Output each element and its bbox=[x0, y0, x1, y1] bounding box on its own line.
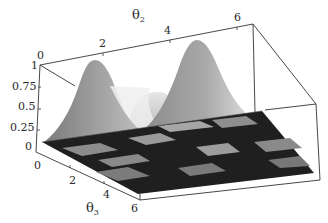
x-tick-label: 6 bbox=[234, 12, 241, 23]
z-tick-label: 0.75 bbox=[12, 81, 37, 92]
z-tick-label: 0.5 bbox=[18, 101, 36, 112]
y-axis-label: θ3 bbox=[86, 201, 99, 217]
y-tick-label: 4 bbox=[103, 189, 110, 200]
z-tick-label: 0.25 bbox=[10, 122, 35, 133]
x-axis-label: θ2 bbox=[132, 8, 145, 24]
x-tick-label: 2 bbox=[99, 38, 106, 49]
z-tick-label: 0 bbox=[25, 141, 32, 152]
z-tick-label: 1 bbox=[31, 60, 38, 71]
y-tick-label: 2 bbox=[69, 175, 76, 186]
y-tick-label: 0 bbox=[34, 160, 41, 171]
x-tick-label: 0 bbox=[37, 50, 44, 61]
y-tick-label: 6 bbox=[131, 203, 138, 214]
x-tick-label: 4 bbox=[164, 25, 171, 36]
